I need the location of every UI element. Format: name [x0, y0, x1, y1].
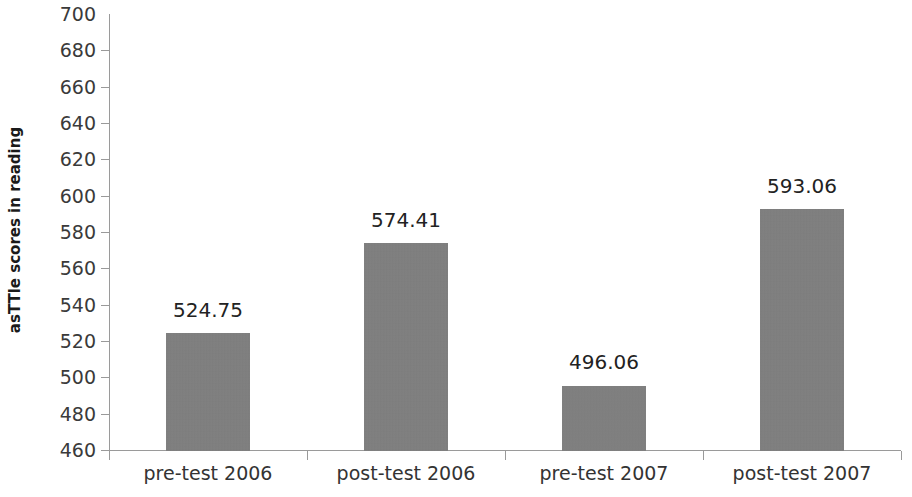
y-axis-tick-mark: [101, 87, 109, 88]
bar: [364, 243, 448, 451]
x-axis-tick-mark: [109, 451, 110, 460]
x-axis-tick-mark: [505, 451, 506, 460]
y-axis-tick-mark: [101, 50, 109, 51]
y-axis-tick-mark: [101, 305, 109, 306]
y-axis-tick-mark: [101, 232, 109, 233]
x-axis-category-label: pre-test 2007: [540, 462, 669, 484]
y-axis-tick-mark: [101, 196, 109, 197]
y-axis-tick-label: 540: [60, 294, 96, 316]
y-axis-tick-label: 500: [60, 366, 96, 388]
bar-value-label: 496.06: [569, 350, 639, 374]
y-axis-tick-label: 460: [60, 439, 96, 461]
y-axis-tick-label: 680: [60, 39, 96, 61]
y-axis-tick-label: 620: [60, 148, 96, 170]
y-axis-tick-mark: [101, 450, 109, 451]
y-axis-title-text: asTTle scores in reading: [6, 127, 24, 333]
y-axis-tick-label: 520: [60, 330, 96, 352]
y-axis-tick-label: 480: [60, 403, 96, 425]
y-axis-tick-mark: [101, 341, 109, 342]
y-axis-tick-mark: [101, 159, 109, 160]
bar-value-label: 524.75: [173, 298, 243, 322]
bar: [166, 333, 250, 451]
bar-value-label: 593.06: [767, 174, 837, 198]
x-axis-category-label: post-test 2006: [337, 462, 476, 484]
y-axis-tick-mark: [101, 268, 109, 269]
x-axis-tick-mark: [703, 451, 704, 460]
x-axis-category-label: pre-test 2006: [144, 462, 273, 484]
y-axis-tick-mark: [101, 414, 109, 415]
y-axis-tick-label: 660: [60, 76, 96, 98]
y-axis-tick-label: 700: [60, 3, 96, 25]
x-axis-category-label: post-test 2007: [733, 462, 872, 484]
bar-value-label: 574.41: [371, 208, 441, 232]
x-axis-tick-mark: [901, 451, 902, 460]
plot-area: [109, 14, 901, 451]
y-axis-title: asTTle scores in reading: [0, 0, 30, 460]
x-axis-tick-mark: [307, 451, 308, 460]
bar-chart: asTTle scores in reading 460480500520540…: [0, 0, 912, 497]
bar: [760, 209, 844, 451]
y-axis-tick-mark: [101, 123, 109, 124]
y-axis-tick-label: 640: [60, 112, 96, 134]
y-axis-tick-label: 600: [60, 185, 96, 207]
y-axis-tick-labels: 460480500520540560580600620640660680700: [30, 0, 102, 497]
y-axis-tick-label: 560: [60, 257, 96, 279]
bar: [562, 386, 646, 452]
y-axis-tick-label: 580: [60, 221, 96, 243]
y-axis-tick-mark: [101, 377, 109, 378]
